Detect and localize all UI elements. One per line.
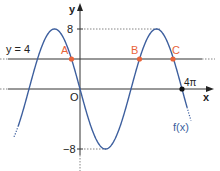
function-graph: y = 4 A B C y 8 −8 O 4π x f(x)	[0, 0, 220, 171]
point-a-label: A	[61, 44, 69, 56]
function-curve-dotted-tail	[187, 107, 191, 120]
origin-label: O	[70, 91, 79, 103]
function-curve-dotted-head	[14, 127, 18, 137]
y-axis-label: y	[69, 3, 76, 15]
point-b-label: B	[131, 44, 138, 56]
line-label: y = 4	[6, 43, 30, 55]
y-max-label: 8	[67, 23, 73, 35]
point-c	[170, 56, 175, 61]
function-label: f(x)	[173, 121, 189, 133]
point-b	[137, 56, 142, 61]
y-axis-arrow-icon	[77, 3, 83, 11]
y-min-label: −8	[63, 143, 76, 155]
x-axis-label: x	[203, 91, 210, 103]
x-mark-label: 4π	[184, 77, 197, 88]
point-c-label: C	[172, 44, 180, 56]
point-a	[69, 56, 74, 61]
